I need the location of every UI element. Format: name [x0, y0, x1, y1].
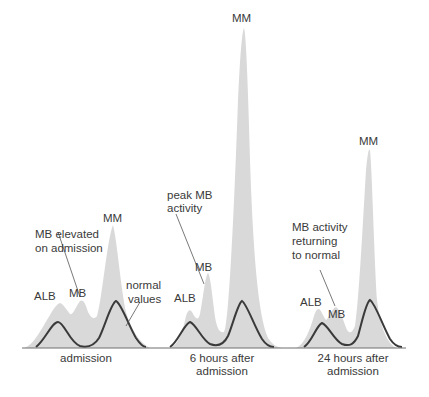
legend-normal-values: normal [126, 279, 161, 291]
annotation-line: on admission [35, 242, 103, 254]
annotation-line: returning [292, 235, 337, 247]
peak-label-alb: ALB [174, 292, 196, 304]
panel-caption: admission [327, 365, 379, 377]
panel-caption: admission [196, 365, 248, 377]
annotation-line: peak MB [167, 189, 213, 201]
panel-caption: 24 hours after [318, 352, 389, 364]
annotation-line: to normal [292, 249, 340, 261]
annotation-line: activity [167, 202, 202, 214]
isoenzyme-diagram: ALB MB MM MB elevated on admission norma… [0, 0, 429, 397]
annotation-line: MB activity [292, 221, 348, 233]
peak-label-mm: MM [232, 12, 251, 24]
leader-line-mb-returning [320, 270, 335, 306]
peak-label-mb: MB [328, 308, 346, 320]
peak-label-mb: MB [69, 287, 87, 299]
panel-caption: 6 hours after [190, 352, 255, 364]
peak-label-alb: ALB [34, 290, 56, 302]
panel-caption: admission [60, 352, 112, 364]
leader-line-normal-values [126, 302, 140, 326]
peak-label-alb: ALB [300, 296, 322, 308]
leader-line-peak-mb [176, 214, 204, 284]
peak-label-mm: MM [103, 212, 122, 224]
peak-label-mb: MB [195, 261, 213, 273]
annotation-line: MB elevated [35, 228, 99, 240]
legend-normal-values: values [128, 293, 161, 305]
peak-label-mm: MM [359, 135, 378, 147]
